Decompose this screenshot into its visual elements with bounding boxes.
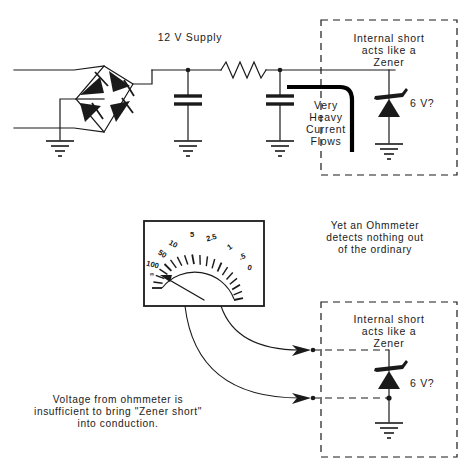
ground-bridge bbox=[46, 141, 74, 156]
junction-dot-zener-bottom bbox=[386, 395, 391, 400]
bottom-box-caption-line-1: Internal short bbox=[353, 313, 424, 325]
bottom-circuit-group: Yet an Ohmmeter detects nothing out of t… bbox=[34, 220, 457, 457]
ground-c2 bbox=[266, 141, 294, 156]
diode-lower-left bbox=[80, 103, 103, 122]
schematic-diagram: 12 V Supply bbox=[0, 0, 466, 473]
meter-scale-label-8: ∞ bbox=[150, 270, 154, 277]
test-lead-upper bbox=[221, 306, 300, 350]
capacitor-c2 bbox=[266, 68, 294, 156]
zener-branch-bottom: 6 V? bbox=[374, 350, 434, 438]
zener-voltage-label-bottom: 6 V? bbox=[410, 377, 434, 389]
ground-c1 bbox=[174, 141, 202, 156]
capacitor-c1 bbox=[174, 68, 202, 156]
top-box-caption-line-3: Zener bbox=[374, 56, 405, 68]
zener-voltage-label-top: 6 V? bbox=[410, 97, 434, 109]
top-box-caption-line-2: acts like a bbox=[362, 44, 416, 56]
analog-ohmmeter[interactable]: 0 .5 1 2.5 5 10 50 100 ∞ bbox=[144, 221, 264, 306]
diode-upper-left bbox=[80, 72, 108, 95]
top-circuit-group: 12 V Supply bbox=[14, 20, 457, 175]
junction-dot-c2 bbox=[278, 68, 283, 73]
heavy-current-note-line-3: Current bbox=[306, 123, 346, 135]
voltage-note-line-3: into conduction. bbox=[78, 418, 159, 429]
bottom-box-caption-line-3: Zener bbox=[374, 337, 405, 349]
ohmmeter-note-line-1: Yet an Ohmmeter bbox=[331, 220, 419, 231]
voltage-note-line-2: insufficient to bring "Zener short" bbox=[34, 406, 202, 417]
test-lead-upper-arrowhead bbox=[292, 345, 311, 356]
meter-test-leads bbox=[185, 306, 315, 404]
ohmmeter-note-line-2: detects nothing out bbox=[326, 232, 424, 243]
ground-zener-bottom bbox=[375, 423, 403, 438]
heavy-current-note-line-2: Heavy bbox=[309, 111, 342, 123]
top-box-caption-line-1: Internal short bbox=[353, 32, 424, 44]
bridge-rectifier bbox=[14, 66, 152, 156]
heavy-current-note-line-4: Flows bbox=[311, 135, 342, 147]
supply-label: 12 V Supply bbox=[158, 31, 222, 43]
ground-zener-top bbox=[375, 144, 403, 159]
diode-lower-right bbox=[110, 98, 133, 122]
ohmmeter-note-line-3: of the ordinary bbox=[338, 244, 412, 255]
meter-case bbox=[144, 221, 264, 306]
zener-diode-bottom bbox=[374, 360, 408, 389]
test-lead-lower-arrowhead bbox=[292, 393, 311, 404]
zener-branch-top: 6 V? bbox=[374, 70, 434, 159]
test-lead-lower bbox=[185, 306, 300, 398]
heavy-current-note-line-1: Very bbox=[314, 99, 338, 111]
voltage-note-line-1: Voltage from ohmmeter is bbox=[53, 394, 183, 405]
resistor-r1 bbox=[221, 62, 266, 78]
zener-diode-top bbox=[374, 88, 408, 117]
diode-upper-right bbox=[109, 71, 134, 96]
junction-dot-c1 bbox=[186, 68, 191, 73]
bottom-box-caption-line-2: acts like a bbox=[362, 325, 416, 337]
